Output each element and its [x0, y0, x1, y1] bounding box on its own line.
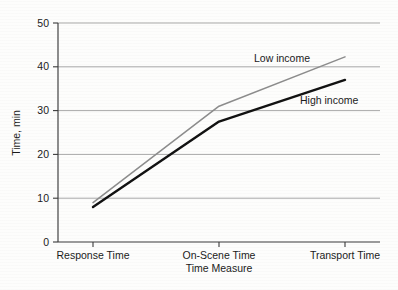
x-ticks [93, 242, 345, 247]
y-axis-title: Time, min [10, 110, 22, 156]
y-tick-label-20: 20 [37, 148, 49, 160]
x-tick-labels: Response Time On-Scene Time Transport Ti… [57, 249, 381, 261]
chart-figure: 50 40 30 20 10 0 Response Time On-Scene … [0, 0, 398, 290]
y-tick-label-30: 30 [37, 104, 49, 116]
y-tick-label-50: 50 [37, 17, 49, 29]
y-tick-label-0: 0 [43, 236, 49, 248]
gridlines [58, 23, 380, 198]
y-ticks [53, 23, 58, 242]
y-tick-labels: 50 40 30 20 10 0 [37, 17, 49, 248]
x-axis-title: Time Measure [186, 262, 253, 274]
x-tick-label-response-time: Response Time [57, 249, 130, 261]
series-label-high-income: High income [300, 94, 359, 106]
line-chart: 50 40 30 20 10 0 Response Time On-Scene … [0, 0, 398, 290]
x-tick-label-transport-time: Transport Time [310, 249, 380, 261]
y-tick-label-10: 10 [37, 192, 49, 204]
series-label-low-income: Low income [254, 52, 310, 64]
x-tick-label-on-scene-time: On-Scene Time [183, 249, 256, 261]
y-tick-label-40: 40 [37, 60, 49, 72]
